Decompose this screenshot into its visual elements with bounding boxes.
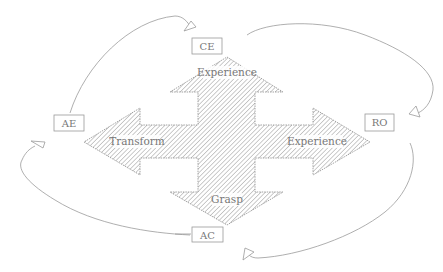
edge-ae-to-ce xyxy=(70,16,191,113)
arrowhead-ae-to-ce-icon xyxy=(184,21,196,31)
arrowhead-ro-to-ac-icon xyxy=(243,248,254,260)
node-ro-label: RO xyxy=(372,117,388,128)
cross-arrow: Experience Experience Transform Grasp xyxy=(84,57,370,225)
edge-ac-to-ae xyxy=(21,146,190,235)
node-ae: AE xyxy=(54,115,84,131)
node-ac-label: AC xyxy=(199,230,215,241)
node-ce: CE xyxy=(192,38,222,54)
node-ae-label: AE xyxy=(61,118,77,129)
node-ce-label: CE xyxy=(200,41,215,52)
learning-cycle-diagram: Experience Experience Transform Grasp CE… xyxy=(0,0,443,272)
right-arrow-label: Experience xyxy=(287,135,347,147)
node-ac: AC xyxy=(192,227,223,242)
up-arrow-label: Experience xyxy=(197,66,257,78)
arrowhead-ce-to-ro-icon xyxy=(409,106,420,117)
edge-ce-to-ro xyxy=(247,24,433,113)
down-arrow-label: Grasp xyxy=(211,193,243,205)
left-arrow-label: Transform xyxy=(109,135,165,147)
node-ro: RO xyxy=(365,114,394,131)
